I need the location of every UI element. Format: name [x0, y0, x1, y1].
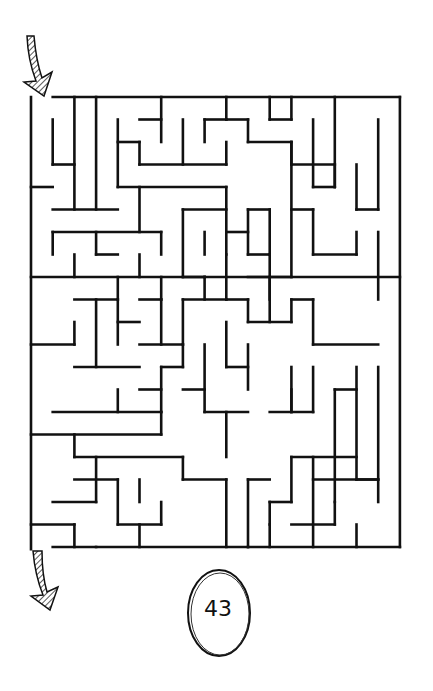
- exit-arrow-icon: [31, 551, 58, 610]
- entrance-arrow-icon: [24, 36, 52, 96]
